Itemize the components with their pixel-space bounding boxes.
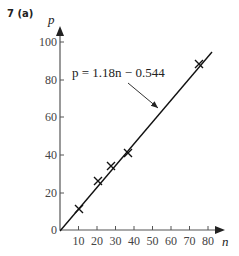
y-tick-label: 100 [39,35,57,49]
x-tick-label: 80 [202,234,214,248]
x-tick-label: 10 [73,234,85,248]
y-tick-label: 20 [45,186,57,200]
data-point-marker [107,162,115,170]
x-tick-label: 60 [165,234,177,248]
y-tick-label: 40 [45,148,57,162]
x-tick-label: 50 [147,234,159,248]
y-tick-label: 60 [45,110,57,124]
x-tick-label: 70 [184,234,196,248]
y-axis-label: p [47,12,55,27]
y-axis-arrow-icon [56,26,64,36]
x-axis-arrow-icon [215,226,225,234]
x-tick-label: 20 [91,234,103,248]
equation-label: p = 1.18n − 0.544 [72,65,165,80]
annotation-arrow [128,83,158,108]
x-tick-label: 30 [110,234,122,248]
data-point-marker [94,177,102,185]
x-axis-label: n [222,234,229,249]
y-tick-label: 80 [45,73,57,87]
data-point-marker [75,205,83,213]
x-tick-label: 40 [128,234,140,248]
origin-label: 0 [51,223,57,237]
chart: 0 20 40 60 80 100 10 20 30 40 50 60 70 8… [0,0,239,256]
